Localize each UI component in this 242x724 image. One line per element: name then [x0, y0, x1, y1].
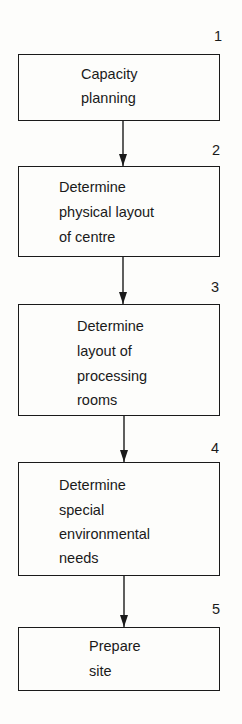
step-label-line: Determine: [59, 473, 126, 498]
step-number: 2: [212, 142, 220, 158]
step-label-line: needs: [59, 546, 99, 571]
step-label-line: rooms: [77, 388, 117, 413]
step-number: 1: [214, 28, 222, 44]
step-label-line: planning: [81, 86, 136, 111]
step-box-capacity-planning: Capacity planning: [18, 54, 220, 121]
step-label-line: site: [89, 659, 112, 684]
step-label-line: physical layout: [59, 200, 154, 225]
step-label-line: Determine: [59, 175, 126, 200]
step-label-line: layout of: [77, 339, 132, 364]
step-label-line: of centre: [59, 225, 115, 250]
step-label-line: Capacity: [81, 62, 137, 87]
step-number: 4: [211, 440, 219, 456]
step-number: 5: [212, 601, 220, 617]
step-box-processing-rooms: Determine layout of processing rooms: [18, 304, 220, 416]
step-label-line: Determine: [77, 314, 144, 339]
step-label-line: Prepare: [89, 634, 141, 659]
step-label-line: special: [59, 498, 104, 523]
step-box-prepare-site: Prepare site: [18, 627, 220, 691]
step-box-environmental-needs: Determine special environmental needs: [18, 462, 220, 576]
step-label-line: environmental: [59, 522, 150, 547]
step-box-physical-layout: Determine physical layout of centre: [18, 166, 220, 257]
step-label-line: processing: [77, 364, 147, 389]
step-number: 3: [211, 279, 219, 295]
